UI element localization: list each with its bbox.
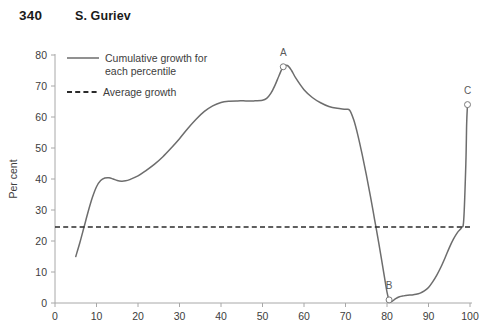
x-axis-tick-label: 80 — [381, 310, 393, 322]
legend-label-cumulative-growth: Cumulative growth for — [105, 52, 208, 64]
y-axis-tick-label: 50 — [35, 142, 47, 154]
y-axis-tick-label: 70 — [35, 80, 47, 92]
x-axis: 0102030405060708090100 — [52, 303, 479, 322]
x-axis-tick-label: 40 — [215, 310, 227, 322]
x-axis-tick-label: 20 — [132, 310, 144, 322]
chart-legend: Cumulative growth foreach percentileAver… — [67, 52, 208, 98]
data-point-marker-b — [386, 297, 392, 303]
cumulative-growth-line — [76, 65, 468, 302]
data-point-marker-a — [280, 64, 286, 70]
x-axis-tick-label: 90 — [423, 310, 435, 322]
running-head: 340 S. Guriev — [0, 8, 482, 30]
cumulative-growth-line-chart: 01020304050607080 0102030405060708090100… — [0, 34, 482, 327]
x-axis-tick-label: 10 — [91, 310, 103, 322]
legend-label-cumulative-growth-line2: each percentile — [105, 65, 176, 77]
page-number: 340 — [19, 8, 42, 23]
series-layer — [55, 65, 470, 302]
data-point-label-b: B — [386, 280, 393, 291]
x-axis-tick-label: 0 — [52, 310, 58, 322]
running-title: S. Guriev — [75, 9, 131, 23]
data-point-label-a: A — [280, 47, 287, 58]
y-axis-tick-label: 30 — [35, 204, 47, 216]
data-point-marker-c — [465, 102, 471, 108]
y-axis-tick-label: 80 — [35, 49, 47, 61]
y-axis-tick-label: 60 — [35, 111, 47, 123]
x-axis-tick-label: 60 — [298, 310, 310, 322]
y-axis: 01020304050607080 — [35, 49, 55, 309]
y-axis-title-label: Per cent — [7, 159, 19, 198]
chart-figure: 01020304050607080 0102030405060708090100… — [0, 34, 482, 327]
figure-page: 340 S. Guriev 01020304050607080 01020304… — [0, 0, 482, 327]
x-axis-tick-label: 50 — [257, 310, 269, 322]
y-axis-title: Per cent — [7, 159, 19, 198]
x-axis-tick-label: 70 — [340, 310, 352, 322]
x-axis-tick-label: 30 — [174, 310, 186, 322]
legend-label-average-growth: Average growth — [103, 86, 177, 98]
x-axis-tick-label: 100 — [461, 310, 479, 322]
y-axis-tick-label: 0 — [41, 297, 47, 309]
data-point-label-c: C — [464, 85, 471, 96]
y-axis-tick-label: 40 — [35, 173, 47, 185]
y-axis-tick-label: 20 — [35, 235, 47, 247]
y-axis-tick-label: 10 — [35, 266, 47, 278]
